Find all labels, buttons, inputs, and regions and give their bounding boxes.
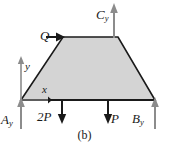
- y-axis-label: y: [25, 61, 30, 72]
- force-label-Ay-text: A: [1, 112, 9, 127]
- force-arrow-Cy-head-icon: [110, 3, 118, 13]
- force-label-By-subscript: y: [140, 117, 144, 127]
- force-label-Ay: Ay: [1, 113, 13, 126]
- y-axis-arrowhead-icon: [18, 56, 24, 64]
- force-label-Cy: Cy: [96, 8, 108, 21]
- force-label-P: P: [111, 112, 119, 125]
- force-label-By: By: [132, 112, 144, 125]
- force-label-By-text: B: [132, 111, 140, 126]
- force-label-2P: 2P: [37, 110, 51, 123]
- x-axis-label: x: [42, 84, 47, 95]
- free-body-diagram-figure: Q Cy y x Ay 2P P By (b): [0, 0, 169, 145]
- force-label-Cy-subscript: y: [105, 13, 109, 23]
- force-label-Ay-subscript: y: [9, 118, 13, 128]
- force-label-Cy-text: C: [96, 7, 105, 22]
- force-label-Q: Q: [40, 29, 49, 42]
- figure-caption: (b): [0, 128, 169, 143]
- force-arrow-2P-head-icon: [58, 114, 66, 124]
